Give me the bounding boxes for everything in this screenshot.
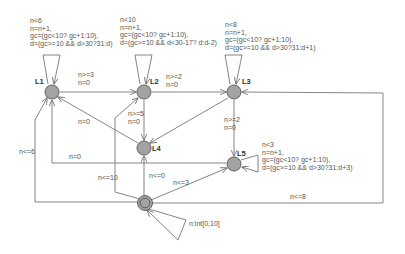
self-loop-L1-label: n<6 n=n+1, gc=(gc<10? gc+1:10), d=(gc>=1… [30, 17, 113, 47]
guard: n>=2 [224, 116, 240, 124]
update: gc=(gc<10? gc+1:10), [262, 156, 353, 164]
self-loop-L3[interactable] [225, 55, 242, 84]
guard: n>=3 [78, 71, 94, 79]
update: n=0 [166, 81, 182, 89]
update: d=(gc>=10 && d>30?31:d) [30, 40, 113, 48]
self-loop-L5-label: n<3 n=n+1, gc=(gc<10? gc+1:10), d=(gc>=1… [262, 141, 353, 171]
guard: n<3 [262, 141, 353, 149]
update: d=(gc>=10 && d>30?31:d+3) [262, 164, 353, 172]
label-L4: L4 [152, 144, 161, 153]
update: n=0 [128, 118, 144, 126]
self-loop-L1[interactable] [43, 55, 60, 84]
edge-L4-L1[interactable] [58, 97, 138, 143]
edge-init-L4-label: n<=0 [149, 172, 165, 180]
self-loop-init[interactable] [147, 209, 186, 240]
update: gc=(gc<10? gc+1:10), [30, 32, 113, 40]
location-L2[interactable] [137, 85, 151, 99]
label-L5: L5 [237, 149, 246, 158]
update: n=0 [224, 124, 240, 132]
update: gc=(gc<10? gc+1:10), [120, 31, 217, 39]
update: n=0 [69, 153, 81, 161]
guard: n<=0 [149, 172, 165, 180]
update: gc=(gc<10? gc+1:10), [225, 36, 316, 44]
update: n=0 [78, 118, 90, 126]
guard: n<=3 [173, 179, 189, 187]
label-L1: L1 [35, 77, 44, 86]
edge-L1-L2-label: n>=3 n=0 [78, 71, 94, 86]
guard: n<=8 [290, 193, 306, 201]
edge-L4-L1-label: n=0 [78, 118, 90, 126]
location-L5[interactable] [227, 157, 241, 171]
edge-init-L2-label: n<=10 [98, 174, 118, 182]
edge-L2-L3-label: n>=2 n=0 [166, 73, 182, 88]
location-L1[interactable] [45, 85, 59, 99]
guard: n>=2 [166, 73, 182, 81]
location-initial-inner [140, 198, 150, 208]
location-L3[interactable] [227, 85, 241, 99]
guard: n<6 [30, 17, 113, 25]
label-L3: L3 [242, 77, 251, 86]
guard: n<8 [225, 21, 316, 29]
update: n=n+1, [225, 29, 316, 37]
guard: n<10 [120, 16, 217, 24]
guard: n>=5 [128, 110, 144, 118]
edge-init-L1-label: n<=6 [19, 148, 35, 156]
select: n:int[0,10] [189, 220, 220, 228]
edge-L3-L5-label: n>=2 n=0 [224, 116, 240, 131]
edge-init-L5-label: n<=3 [173, 179, 189, 187]
location-L4[interactable] [137, 141, 151, 155]
edge-init-L3-label: n<=8 [290, 193, 306, 201]
self-loop-init-label: n:int[0,10] [189, 220, 220, 228]
edge-L5-L1-label: n=0 [69, 153, 81, 161]
update: d=(gc>=10 && d<30-17? d:d-2) [120, 39, 217, 47]
guard: n<=10 [98, 174, 118, 182]
update: d=(gc>=10 && d>30?31:d+1) [225, 44, 316, 52]
edge-L3-L4[interactable] [150, 98, 228, 143]
update: n=0 [78, 79, 94, 87]
update: n=n+1, [30, 25, 113, 33]
guard: n<=6 [19, 148, 35, 156]
update: n=n+1, [120, 24, 217, 32]
self-loop-L3-label: n<8 n=n+1, gc=(gc<10? gc+1:10), d=(gc>=1… [225, 21, 316, 51]
update: n=n+1, [262, 149, 353, 157]
label-L2: L2 [150, 77, 159, 86]
self-loop-L2-label: n<10 n=n+1, gc=(gc<10? gc+1:10), d=(gc>=… [120, 16, 217, 46]
edge-L2-L4-label: n>=5 n=0 [128, 110, 144, 125]
